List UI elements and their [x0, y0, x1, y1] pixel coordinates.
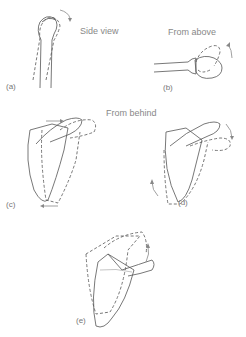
- caption-from-behind: From behind: [106, 108, 157, 118]
- arrow-head: [40, 204, 44, 208]
- label-c: (c): [6, 200, 15, 209]
- panel-a-figure: [33, 10, 72, 88]
- caption-from-above: From above: [168, 27, 216, 37]
- label-d: (d): [178, 198, 188, 207]
- label-a: (a): [6, 82, 16, 91]
- panel-d-figure: [150, 122, 234, 204]
- arrow-head: [68, 18, 72, 22]
- arrow-head: [226, 42, 230, 47]
- scapula-diagram: [0, 0, 246, 337]
- label-e: (e): [76, 316, 86, 325]
- caption-side-view: Side view: [80, 26, 119, 36]
- panel-b-figure: [154, 42, 232, 78]
- label-b: (b): [163, 83, 173, 92]
- panel-c-figure: [28, 118, 96, 208]
- arrow-head: [150, 179, 154, 184]
- arrow-head: [230, 136, 234, 140]
- panel-e-figure: [86, 232, 154, 327]
